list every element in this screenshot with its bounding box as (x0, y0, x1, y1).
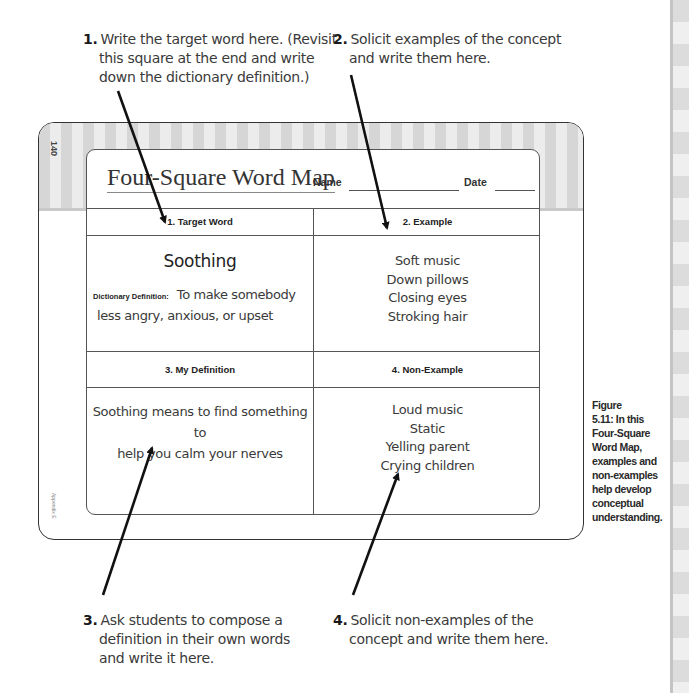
date-field[interactable] (495, 190, 535, 191)
non-example-item: Yelling parent (314, 438, 540, 457)
date-label: Date (464, 176, 487, 188)
callout-1: 1.Write the target word here. (Revisit t… (83, 30, 337, 87)
four-square-form: Four-Square Word Map Name Date 1. Target… (86, 149, 540, 515)
page-edge-stripe (670, 0, 689, 693)
dictionary-definition-label: Dictionary Definition: (93, 292, 169, 301)
square-example[interactable]: Soft music Down pillows Closing eyes Str… (314, 252, 540, 326)
example-item: Soft music (314, 252, 540, 271)
square-header-target-word: 1. Target Word (87, 209, 313, 235)
name-label: Name (313, 176, 342, 188)
square-header-non-example: 4. Non-Example (314, 352, 540, 387)
square-header-example: 2. Example (314, 209, 540, 235)
example-item: Stroking hair (314, 308, 540, 327)
form-title: Four-Square Word Map (107, 164, 335, 193)
non-example-item: Crying children (314, 457, 540, 476)
square-my-definition[interactable]: Soothing means to find something to help… (87, 401, 313, 464)
callout-2: 2.Solicit examples of the concept and wr… (333, 30, 561, 68)
square-target-word[interactable]: Soothing Dictionary Definition:To make s… (87, 251, 313, 325)
grid-divider (87, 387, 539, 388)
page-number: 140 (49, 141, 59, 156)
figure-caption: Figure 5.11: In this Four-Square Word Ma… (592, 398, 672, 524)
non-example-item: Static (314, 420, 540, 439)
appendix-label: Appendix E (51, 493, 57, 519)
four-square-grid: 1. Target Word Soothing Dictionary Defin… (87, 208, 539, 514)
callout-4: 4.Solicit non-examples of the concept an… (333, 611, 548, 649)
square-header-my-definition: 3. My Definition (87, 352, 313, 387)
non-example-item: Loud music (314, 401, 540, 420)
example-item: Closing eyes (314, 289, 540, 308)
example-item: Down pillows (314, 271, 540, 290)
target-word: Soothing (87, 251, 313, 271)
name-field[interactable] (349, 190, 459, 191)
dictionary-definition-line: less angry, anxious, or upset (87, 306, 313, 325)
my-definition-line: help you calm your nerves (87, 443, 313, 464)
word-map-card: 140 Appendix E Four-Square Word Map Name… (38, 122, 584, 540)
my-definition-line: Soothing means to find something to (87, 401, 313, 443)
square-non-example[interactable]: Loud music Static Yelling parent Crying … (314, 401, 540, 475)
dictionary-definition-line: To make somebody (177, 287, 296, 302)
callout-3: 3.Ask students to compose a definition i… (83, 611, 290, 668)
grid-divider (87, 235, 539, 236)
